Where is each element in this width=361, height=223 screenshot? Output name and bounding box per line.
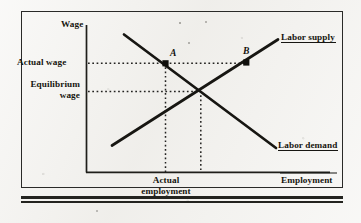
scan-speck <box>179 22 181 24</box>
labor-demand-label: Labor demand <box>278 140 338 151</box>
x-axis-title: Employment <box>281 175 333 186</box>
point-b-marker <box>243 59 249 65</box>
point-a-marker <box>162 60 168 66</box>
page-rule-thin <box>21 201 343 203</box>
actual-employment-label: Actual employment <box>128 175 204 196</box>
point-a-label: A <box>170 47 176 58</box>
figure-page: Wage Actual wage Equilibrium wage Labor … <box>0 0 361 223</box>
labor-demand-curve <box>124 35 276 149</box>
equilibrium-wage-label: Equilibrium wage <box>8 79 80 100</box>
scan-speck <box>96 210 98 212</box>
point-b-label: B <box>243 45 249 56</box>
scan-speck <box>205 21 207 23</box>
page-rule-thick <box>21 196 343 199</box>
actual-wage-label: Actual wage <box>17 57 66 68</box>
scan-speck <box>188 42 190 44</box>
y-axis-title: Wage <box>61 19 83 30</box>
labor-supply-label: Labor supply <box>281 32 335 43</box>
